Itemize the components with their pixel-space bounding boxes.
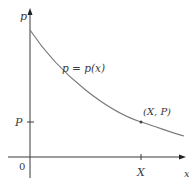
point-label: (X, P) xyxy=(143,106,171,117)
origin-label: 0 xyxy=(19,161,25,172)
point-X-P xyxy=(140,121,143,124)
demand-curve xyxy=(30,30,184,136)
curve-label: p = p(x) xyxy=(62,62,105,74)
x-axis-arrow-icon xyxy=(179,155,186,160)
y-axis-label: p xyxy=(20,10,27,23)
y-tick-label-P: P xyxy=(14,116,23,129)
x-axis-label: x xyxy=(184,168,189,179)
y-axis-arrow-icon xyxy=(28,8,33,15)
x-tick-label-X: X xyxy=(136,166,146,179)
demand-curve-diagram: p x 0 P X p = p(x) (X, P) xyxy=(0,0,189,184)
